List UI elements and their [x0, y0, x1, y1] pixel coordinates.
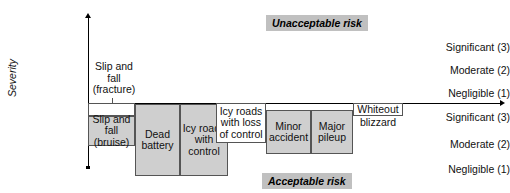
y-axis-tick-label-5: Moderate (2)	[426, 138, 510, 150]
hazard-box-line-2: blizzard	[360, 116, 396, 128]
risk-matrix-chart: Unacceptable risk Acceptable risk Severi…	[0, 0, 510, 193]
y-axis-tick-label-6: Negligible (1)	[426, 163, 510, 175]
hazard-box-major-pileup: Major pileup	[311, 110, 353, 154]
y-axis-tick-label-3: Negligible (1)	[426, 87, 510, 99]
hazard-box-icy-roads-with-loss-of-control: Icy roads with loss of control	[216, 103, 266, 143]
hazard-box-slip-fall-bruise: Slip and fall (bruise)	[88, 116, 135, 146]
hazard-box-line-2: pileup	[318, 132, 346, 144]
unacceptable-risk-banner: Unacceptable risk	[266, 15, 368, 31]
hazard-box-dead-battery: Dead battery	[135, 104, 180, 176]
hazard-label-line-1: Slip and	[90, 61, 138, 73]
hazard-box-line-3: control	[188, 146, 220, 158]
hazard-box-line-2: accident	[269, 132, 308, 144]
acceptable-risk-banner: Acceptable risk	[262, 173, 352, 189]
hazard-box-line-3: (bruise)	[94, 137, 130, 149]
y-axis-tick-label-1: Significant (3)	[426, 41, 510, 53]
hazard-label-line-3: (fracture)	[90, 84, 138, 96]
hazard-box-line-2: battery	[141, 140, 173, 152]
hazard-box-line-3: of control	[219, 129, 262, 141]
hazard-box-whiteout-blizzard: Whiteout	[353, 103, 403, 116]
y-axis-title: Severity	[6, 48, 18, 108]
hazard-label-slip-fall-fracture: Slip and fall (fracture)	[90, 61, 138, 96]
hazard-box-line-1: Whiteout	[357, 104, 398, 116]
y-axis-tick-label-4: Significant (3)	[426, 111, 510, 123]
x-axis-arrow-icon	[500, 100, 505, 106]
y-axis-tick-label-2: Moderate (2)	[426, 64, 510, 76]
y-axis-end-marker	[86, 166, 90, 169]
hazard-box-minor-accident: Minor accident	[266, 110, 311, 154]
hazard-label-whiteout-blizzard: blizzard	[353, 117, 403, 129]
